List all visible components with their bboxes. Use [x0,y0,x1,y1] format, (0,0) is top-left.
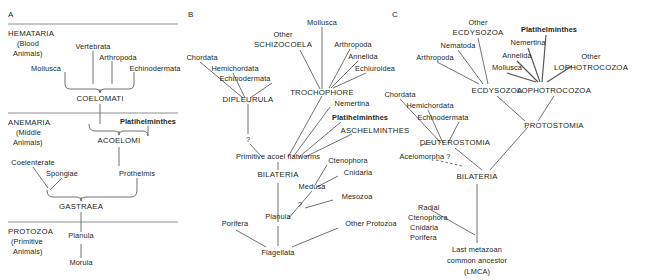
panel-b-node-trochophore: TROCHOPHORE [290,88,354,97]
panel-c-taxon-other-lopho: LOPHOTROCOZOA [554,63,628,72]
panel-b-taxon-other: Other [274,30,293,39]
panel-b-taxon-mollusca: Mollusca [307,18,337,27]
panel-b-taxon-cnidaria: Cnidaria [344,168,372,177]
panel-c-taxon-chordata: Chordata [384,90,415,99]
panel-c-taxon-other-2: Other [582,52,601,61]
panel-a-taxon-echinodermata: Echinodermata [129,64,180,73]
panel-a-gloss-animals-1: Animals) [13,49,43,58]
panel-a-grade-hemataria: HEMATARIA [8,29,54,38]
panel-b-taxon-platihelminthes: Platihelminthes [332,113,388,122]
panel-a-bracket-gastraea [47,190,137,201]
panel-b-question-1: ? [246,135,250,144]
panel-c-node-deuterostomia: DEUTEROSTOMIA [420,138,490,147]
panel-c-stem-other-ecdysozoa [478,38,488,84]
panel-a-taxon-vertebrata: Vertebrata [75,42,110,51]
panel-c-taxon-porifera: Porifera [410,233,437,242]
panel-b-taxon-flagellata: Flagellata [261,248,294,257]
panel-c-stem-mollusca [507,73,536,82]
panel-c-node-lmca-line-2: common ancestor [447,256,507,265]
panel-a-taxon-platihelminthes: Platihelminthes [120,117,176,126]
panel-b-link-porifera-flagellata [236,230,266,247]
panel-c-stem-arthropoda [437,62,479,84]
panel-c-taxon-other-1: Other [469,18,488,27]
panel-b-link-nemertina-acoel [293,107,330,157]
panel-c-taxon-arthropoda: Arthropoda [416,53,454,62]
panel-c-node-ecdysozoa: ECDYSOZOA [472,86,523,95]
panel-a-letter: A [8,10,13,19]
panel-b-letter: B [188,10,193,19]
panel-a-gloss-blood: (Blood [17,39,39,48]
panel-a-bracket-coelomati [65,84,134,93]
panel-c-taxon-mollusca: Mollusca [492,63,522,72]
panel-b-stem-arthropoda [329,49,350,88]
panel-b-stem-schizocoela [300,50,320,89]
panel-a-gloss-middle: (Middle [16,128,41,137]
panel-b-taxon-porifera: Porifera [222,219,249,228]
panel-a-node-acoelomi: ACOELOMI [98,136,141,145]
panel-a-taxon-prothelmis: Prothelmis [119,169,155,178]
panel-b-stem-echiuroidea [333,73,366,88]
panel-b-taxon-arthropoda: Arthropoda [334,40,372,49]
panel-c-node-lmca-line-3: (LMCA) [464,267,490,276]
panel-b-node-bilateria: BILATERIA [257,170,298,179]
panel-c-link-lophotrocozoa-protostomia [538,96,554,121]
panel-a-node-coelomati: COELOMATI [76,94,123,103]
panel-b-taxon-echiuroidea: Echiuroidea [355,64,395,73]
panel-b-question-2: ? [298,200,302,209]
panel-c-node-lmca-line-1: Last metazoan [452,245,502,254]
panel-a-gloss-animals-2: Animals) [13,138,43,147]
panel-c-letter: C [392,10,398,19]
panel-b-node-aschelminthes: ASCHELMINTHES [341,126,410,135]
panel-b-taxon-hemichordata: Hemichordata [211,64,258,73]
panel-c-link-protostomia-bilateria [490,127,528,170]
panel-b-taxon-mesozoa: Mesozoa [342,192,373,201]
panel-a-branch-spongiae [50,178,62,190]
panel-c-node-bilateria: BILATERIA [456,172,497,181]
panel-b-taxon-other-protozoa: Other Protozoa [345,219,397,228]
panel-c-link-ecdysozoa-protostomia [497,96,525,121]
panel-b-link-protozoa-flagellata [292,228,338,247]
panel-c-taxon-acelomorpha: Acelomorpha ? [399,152,450,161]
panel-c-taxon-radial: Radial [418,203,440,212]
panel-a-taxon-mollusca: Mollusca [31,64,61,73]
panel-c-stem-nematoda [458,50,483,84]
panel-c-taxon-platihelminthes: Platihelminthes [521,25,577,34]
panel-c-node-lophotrocozoa: LOPHOTROCOZOA [517,86,591,95]
panel-a-taxon-spongiae: Spongiae [46,169,78,178]
panel-a-grade-anemaria: ANEMARIA [8,118,50,127]
panel-b-link-mesozoa-q [305,200,333,208]
panel-b-taxon-echinodermata: Echinodermata [219,74,270,83]
panel-b-link-trochophore-acoel [288,96,322,157]
panel-b-node-dipleurula: DIPLEURULA [223,95,274,104]
panel-a-taxon-planula: Planula [68,231,93,240]
panel-a-taxon-arthropoda: Arthropoda [99,53,137,62]
panel-c-node-protostomia: PROTOSTOMIA [524,121,584,130]
panel-a-taxon-coelenterate: Coelenterate [11,158,55,167]
phylogeny-figure: A HEMATARIA (Blood Animals) Vertebrata A… [0,0,647,280]
panel-c-taxon-annelida: Annelida [502,51,532,60]
panel-c-taxon-nemertina: Nemertina [511,38,546,47]
panel-a-taxon-morula: Morula [69,258,92,267]
panel-c-taxon-echinodermata: Echinodermata [417,113,468,122]
panel-b-taxon-planula: Planula [265,212,290,221]
panel-b-node-acoel: Primitive acoel flatworms [236,152,320,161]
panel-b-taxon-nemertina: Nemertina [335,99,370,108]
panel-c-taxon-hemichordata: Hemichordata [406,101,453,110]
panel-b-taxon-annelida: Annelida [348,52,378,61]
panel-b-taxon-ctenophora: Ctenophora [328,156,368,165]
panel-b-node-schizocoela: SCHIZOCOELA [254,40,312,49]
panel-c-taxon-ctenophora: Ctenophora [408,213,448,222]
panel-c-taxon-nematoda: Nematoda [441,41,476,50]
panel-a-grade-protozoa: PROTOZOA [8,227,53,236]
panel-c-taxon-other-ecdysozoa: ECDYSOZOA [453,28,504,37]
panel-a-node-gastraea: GASTRAEA [59,202,103,211]
panel-b-taxon-chordata: Chordata [186,53,217,62]
panel-a-gloss-animals-3: Animals) [13,247,43,256]
panel-a-gloss-primitive: (Primitive [11,237,43,246]
panel-c-link-deuterostomia-bilateria [455,148,482,170]
panel-b-taxon-medusa: Medusa [299,182,326,191]
panel-c-taxon-cnidaria: Cnidaria [410,223,438,232]
